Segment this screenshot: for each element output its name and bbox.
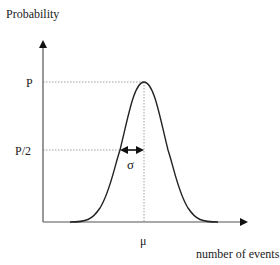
gaussian-diagram xyxy=(0,0,280,265)
sigma-arrow xyxy=(120,146,144,154)
mu-label: μ xyxy=(140,235,146,247)
peak-tick-label: P xyxy=(26,77,33,89)
x-axis-label: number of events xyxy=(196,248,279,260)
half-max-tick-label: P/2 xyxy=(15,145,31,157)
sigma-label: σ xyxy=(127,158,134,171)
y-axis-label: Probability xyxy=(6,8,59,20)
